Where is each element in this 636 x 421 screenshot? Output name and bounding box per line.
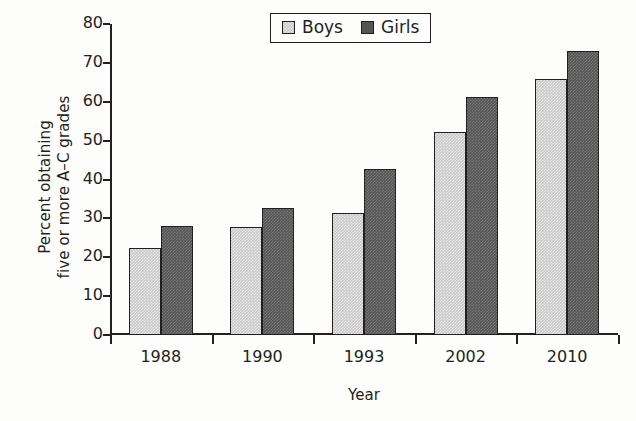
y-axis-tick-mark — [103, 101, 110, 103]
bar-boys-1988 — [129, 248, 161, 335]
x-axis-tick-mark — [516, 335, 518, 344]
bar-boys-2010 — [535, 79, 567, 335]
y-axis-tick-mark — [103, 256, 110, 258]
legend-swatch-boys-icon — [282, 21, 295, 34]
bar-girls-1990 — [262, 208, 294, 335]
x-axis-category-label-1990: 1990 — [222, 347, 302, 367]
plot-area: 01020304050607080 — [110, 24, 618, 335]
legend-label-girls: Girls — [381, 17, 419, 38]
y-axis-tick-label: 70 — [83, 52, 103, 72]
y-axis-tick-label: 20 — [83, 246, 103, 266]
chart-legend: Boys Girls — [270, 13, 431, 43]
x-axis-tick-mark — [415, 335, 417, 344]
y-axis-tick-label: 30 — [83, 207, 103, 227]
y-axis-title: Percent obtaining five or more A–C grade… — [36, 37, 74, 337]
bar-girls-2010 — [567, 51, 599, 335]
x-axis-tick-mark — [313, 335, 315, 344]
y-axis-tick-mark — [103, 295, 110, 297]
y-axis-tick-label: 40 — [83, 169, 103, 189]
legend-item-girls: Girls — [361, 17, 419, 38]
y-axis-line — [110, 24, 112, 335]
x-axis-tick-mark — [618, 335, 620, 344]
bar-boys-1990 — [230, 227, 262, 335]
bar-chart: Percent obtaining five or more A–C grade… — [0, 0, 636, 421]
x-axis-tick-mark — [212, 335, 214, 344]
x-axis-category-label-2010: 2010 — [527, 347, 607, 367]
x-axis-category-label-1988: 1988 — [121, 347, 201, 367]
y-axis-tick-mark — [103, 334, 110, 336]
y-axis-tick-mark — [103, 217, 110, 219]
y-axis-title-line-2: five or more A–C grades — [55, 37, 74, 337]
x-axis-tick-mark — [110, 335, 112, 344]
x-axis-title: Year — [110, 386, 618, 405]
y-axis-tick-label: 0 — [93, 324, 103, 344]
bar-girls-2002 — [466, 97, 498, 335]
bar-girls-1993 — [364, 169, 396, 335]
y-axis-tick-mark — [103, 140, 110, 142]
x-axis-category-label-2002: 2002 — [426, 347, 506, 367]
bar-boys-2002 — [434, 132, 466, 335]
y-axis-tick-label: 10 — [83, 285, 103, 305]
y-axis-tick-label: 60 — [83, 91, 103, 111]
legend-swatch-girls-icon — [361, 21, 374, 34]
x-axis-category-label-1993: 1993 — [324, 347, 404, 367]
y-axis-tick-label: 80 — [83, 13, 103, 33]
bar-girls-1988 — [161, 226, 193, 335]
y-axis-tick-mark — [103, 23, 110, 25]
y-axis-tick-label: 50 — [83, 130, 103, 150]
y-axis-tick-mark — [103, 62, 110, 64]
legend-item-boys: Boys — [282, 17, 343, 38]
y-axis-title-line-1: Percent obtaining — [36, 37, 55, 337]
bar-boys-1993 — [332, 213, 364, 335]
legend-label-boys: Boys — [302, 17, 343, 38]
y-axis-tick-mark — [103, 179, 110, 181]
